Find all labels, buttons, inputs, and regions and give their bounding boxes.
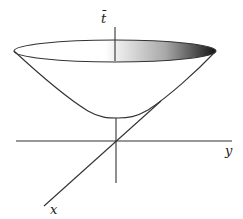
y-axis-label: y	[224, 143, 233, 158]
hyperboloid-diagram: t̄ y x	[0, 0, 243, 219]
t-axis-label: t̄	[101, 10, 107, 26]
x-axis-label: x	[50, 202, 58, 217]
